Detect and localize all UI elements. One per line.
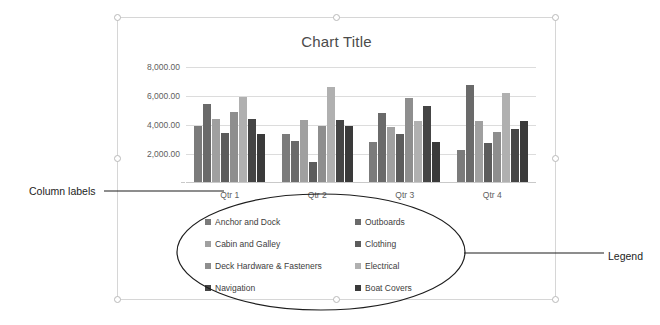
resize-handle-middle-right[interactable]	[552, 155, 559, 162]
legend-item-label: Outboards	[365, 217, 405, 227]
legend-item-label: Electrical	[365, 261, 399, 271]
resize-handle-top-right[interactable]	[552, 14, 559, 21]
legend-swatch	[355, 219, 361, 225]
legend-item-label: Boat Covers	[365, 283, 412, 293]
annotation-label-column-labels: Column labels	[29, 185, 96, 197]
bar[interactable]	[282, 134, 290, 183]
bar[interactable]	[502, 93, 510, 183]
bar[interactable]	[327, 87, 335, 183]
bar[interactable]	[345, 126, 353, 183]
y-axis-tick-label: 8,000.00	[147, 62, 180, 72]
legend-item[interactable]: Deck Hardware & Fasteners	[205, 261, 355, 271]
bar-group: Qtr 4	[449, 67, 537, 183]
y-axis-zero-tick	[181, 182, 185, 183]
bar[interactable]	[378, 113, 386, 183]
bar[interactable]	[396, 134, 404, 183]
legend-swatch	[205, 263, 211, 269]
legend-swatch	[355, 285, 361, 291]
legend-item[interactable]: Clothing	[355, 239, 475, 249]
bar-group: Qtr 3	[361, 67, 449, 183]
bar[interactable]	[230, 112, 238, 183]
legend-item[interactable]: Outboards	[355, 217, 475, 227]
annotation-label-legend: Legend	[608, 250, 643, 262]
legend-item-label: Navigation	[215, 283, 255, 293]
bar[interactable]	[511, 129, 519, 183]
axis-baseline	[186, 182, 536, 183]
bar[interactable]	[248, 119, 256, 183]
x-axis-tick-label: Qtr 4	[483, 190, 502, 200]
resize-handle-bottom-left[interactable]	[114, 296, 121, 303]
legend-swatch	[205, 285, 211, 291]
x-axis-tick-label: Qtr 1	[220, 190, 239, 200]
chart-object[interactable]: Chart Title 2,000.004,000.006,000.008,00…	[117, 17, 556, 300]
bar[interactable]	[239, 97, 247, 183]
bar[interactable]	[221, 133, 229, 183]
resize-handle-middle-left[interactable]	[114, 155, 121, 162]
bar[interactable]	[405, 98, 413, 183]
bar[interactable]	[493, 132, 501, 183]
bar[interactable]	[194, 126, 202, 183]
bar[interactable]	[387, 127, 395, 183]
bar[interactable]	[484, 143, 492, 183]
legend-swatch	[205, 241, 211, 247]
bar[interactable]	[203, 104, 211, 183]
x-axis-tick-label: Qtr 3	[395, 190, 414, 200]
bar[interactable]	[520, 121, 528, 183]
legend-swatch	[355, 263, 361, 269]
legend-item-label: Cabin and Galley	[215, 239, 280, 249]
chart-title[interactable]: Chart Title	[118, 33, 555, 50]
bar[interactable]	[414, 121, 422, 183]
legend-item[interactable]: Navigation	[205, 283, 355, 293]
bar[interactable]	[309, 162, 317, 183]
bar[interactable]	[291, 141, 299, 183]
y-axis-tick-label: 2,000.00	[147, 149, 180, 159]
legend-item-label: Deck Hardware & Fasteners	[215, 261, 322, 271]
bar[interactable]	[257, 134, 265, 183]
x-axis-tick-label: Qtr 2	[308, 190, 327, 200]
plot-area: 2,000.004,000.006,000.008,000.00 Qtr 1Qt…	[186, 67, 536, 183]
legend-item[interactable]: Anchor and Dock	[205, 217, 355, 227]
bar-group: Qtr 2	[274, 67, 362, 183]
bar[interactable]	[318, 126, 326, 183]
bar[interactable]	[432, 142, 440, 183]
legend-item[interactable]: Electrical	[355, 261, 475, 271]
bar[interactable]	[336, 120, 344, 183]
resize-handle-top-center[interactable]	[333, 14, 340, 21]
legend-item[interactable]: Boat Covers	[355, 283, 475, 293]
y-axis-tick-label: 6,000.00	[147, 91, 180, 101]
legend-swatch	[205, 219, 211, 225]
resize-handle-top-left[interactable]	[114, 14, 121, 21]
y-axis-tick-label: 4,000.00	[147, 120, 180, 130]
resize-handle-bottom-right[interactable]	[552, 296, 559, 303]
bar[interactable]	[423, 106, 431, 183]
bar[interactable]	[457, 150, 465, 183]
legend-item-label: Anchor and Dock	[215, 217, 280, 227]
bar[interactable]	[475, 121, 483, 183]
chart-legend[interactable]: Anchor and DockOutboardsCabin and Galley…	[205, 211, 475, 299]
legend-item-label: Clothing	[365, 239, 396, 249]
bar[interactable]	[369, 142, 377, 183]
bar-group: Qtr 1	[186, 67, 274, 183]
legend-swatch	[355, 241, 361, 247]
bar[interactable]	[466, 85, 474, 183]
bar[interactable]	[212, 119, 220, 183]
legend-item[interactable]: Cabin and Galley	[205, 239, 355, 249]
bar[interactable]	[300, 120, 308, 183]
